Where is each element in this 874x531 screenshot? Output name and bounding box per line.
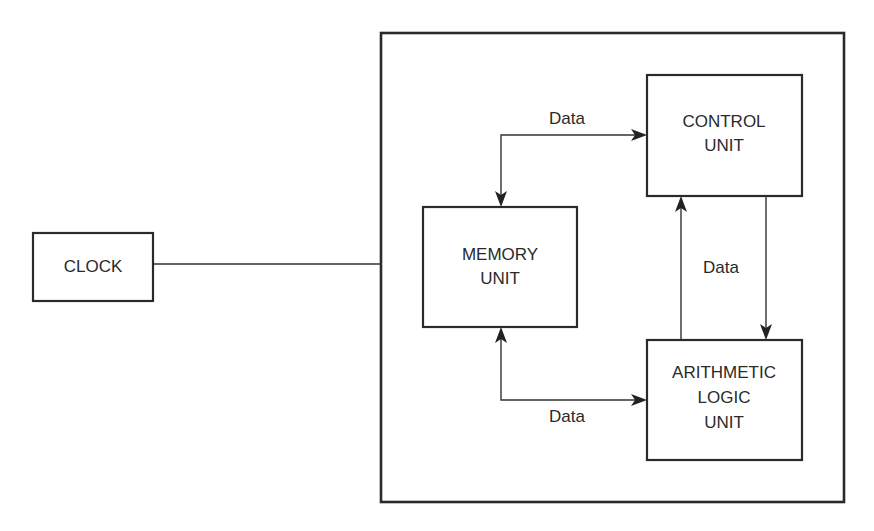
- memory-alu-connector: [501, 336, 640, 400]
- edge-memory-alu: Data: [495, 327, 647, 426]
- alu-label-line-1: ARITHMETIC: [672, 363, 776, 382]
- control-unit-label-line-1: CONTROL: [682, 112, 765, 131]
- edge-memory-control: Data: [495, 109, 647, 207]
- alu-label-line-3: UNIT: [704, 413, 744, 432]
- memory-unit-label-line-2: UNIT: [480, 269, 520, 288]
- alu-label-line-2: LOGIC: [698, 388, 751, 407]
- clock-node: CLOCK: [33, 233, 153, 301]
- edge-label-data-vertical: Data: [703, 258, 739, 277]
- control-unit-label-line-2: UNIT: [704, 136, 744, 155]
- edge-label-data-top: Data: [549, 109, 585, 128]
- clock-label: CLOCK: [64, 257, 123, 276]
- cpu-block-diagram: CLOCK MEMORY UNIT CONTROL UNIT ARITHMETI…: [0, 0, 874, 531]
- edge-control-alu: Data: [675, 196, 772, 340]
- edge-label-data-bottom: Data: [549, 407, 585, 426]
- memory-unit-node: MEMORY UNIT: [423, 207, 577, 327]
- memory-unit-box: [423, 207, 577, 327]
- memory-unit-label-line-1: MEMORY: [462, 245, 538, 264]
- alu-node: ARITHMETIC LOGIC UNIT: [647, 340, 802, 460]
- control-unit-node: CONTROL UNIT: [647, 75, 802, 196]
- memory-control-connector: [501, 135, 640, 198]
